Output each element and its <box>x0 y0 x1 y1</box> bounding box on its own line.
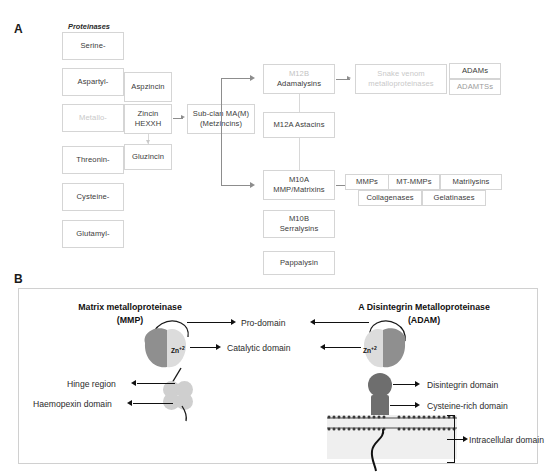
box-mmps: MMPs <box>345 174 389 190</box>
arrowhead-hinge-region <box>131 380 136 386</box>
label-mt-mmps: MT-MMPs <box>396 177 431 187</box>
label-zincin: Zincin <box>138 109 159 119</box>
box-snake-venom-metalloproteinases: Snake venom metalloproteinases <box>355 64 447 94</box>
label-disintegrin-domain: Disintegrin domain <box>427 380 498 390</box>
label-pro-domain: Pro-domain <box>241 318 285 328</box>
arrowhead-zincin-subclan <box>181 115 185 119</box>
label-m12a-astacins: M12A Astacins <box>273 120 324 130</box>
class-label-glutamyl: Glutamyl- <box>76 229 109 239</box>
connector-m12a-m10a <box>299 138 300 170</box>
arrowhead-subclan-m10a <box>250 182 255 188</box>
class-label-metallo: Metallo- <box>79 113 107 123</box>
adam-zinc-charge: +2 <box>371 345 377 351</box>
class-label-serine: Serine- <box>80 41 105 51</box>
label-adamalysins: Adamalysins <box>277 79 321 89</box>
proteinases-header: Proteinases <box>68 22 110 31</box>
arrowhead-catalytic-left <box>216 344 221 350</box>
class-box-glutamyl: Glutamyl- <box>62 220 124 248</box>
label-m12b: M12B <box>289 69 309 79</box>
arrowhead-pro-domain-left <box>231 319 236 325</box>
arrowhead-disintegrin-domain <box>415 381 420 387</box>
label-mmp-matrixins: MMP/Matrixins <box>273 185 325 195</box>
arrowhead-cysteine-rich-domain <box>415 402 420 408</box>
label-intracellular-domain: Intracellular domain <box>469 435 544 445</box>
arrow-line-haemopexin-domain <box>133 403 173 404</box>
arrow-line-cysteine-rich-domain <box>390 405 417 406</box>
panel-a: A Proteinases Serine- Aspartyl- Metallo-… <box>0 0 556 282</box>
box-m10a-mmp-matrixins: M10A MMP/Matrixins <box>263 170 335 200</box>
arrow-line-pro-domain-right <box>315 322 369 323</box>
class-label-threonin: Threonin- <box>76 155 109 165</box>
arrowhead-pro-domain-right <box>310 319 315 325</box>
connector-subclan-to-m12b <box>221 78 253 79</box>
label-matrilysins: Matrilysins <box>453 177 490 187</box>
arrow-line-catalytic-right <box>325 347 361 348</box>
disintegrin-domain-shape <box>368 373 392 397</box>
arrowhead-catalytic-right <box>320 344 325 350</box>
class-box-cysteine: Cysteine- <box>62 183 124 211</box>
arrow-line-catalytic-left <box>190 347 218 348</box>
arrowhead-subclan-m12b <box>250 75 255 81</box>
mmp-zinc-text: Zn <box>171 347 179 354</box>
label-aspzincin: Aspzincin <box>131 82 164 92</box>
arrowhead-m12b-children <box>347 76 351 80</box>
box-adams: ADAMs <box>449 63 501 79</box>
label-m10b: M10B <box>289 214 309 224</box>
adam-zinc-label: Zn+2 <box>363 345 377 354</box>
arrow-line-hinge-region <box>137 383 175 384</box>
arrow-line-pro-domain-left <box>187 322 233 323</box>
class-box-serine: Serine- <box>62 32 124 60</box>
box-m12b-adamalysins: M12B Adamalysins <box>263 64 335 94</box>
box-m10b-serralysins: M10B Serralysins <box>263 210 335 238</box>
mmp-zinc-charge: +2 <box>179 345 185 351</box>
box-matrilysins: Matrilysins <box>440 174 502 190</box>
adam-zinc-text: Zn <box>363 347 371 354</box>
label-m10a: M10A <box>289 175 309 185</box>
label-gluzincin: Gluzincin <box>132 152 164 162</box>
arrow-line-disintegrin-domain <box>393 384 417 385</box>
label-collagenases: Collagenases <box>366 193 413 203</box>
cysteine-rich-domain-shape <box>371 395 389 417</box>
box-adamtss: ADAMTSs <box>449 79 501 95</box>
connector-m12b-m12a <box>299 94 300 112</box>
box-zincin-hexxh: Zincin HEXXH <box>124 104 172 134</box>
box-gluzincin: Gluzincin <box>124 144 172 170</box>
class-box-aspartyl: Aspartyl- <box>62 68 124 96</box>
panel-b-letter: B <box>14 272 23 286</box>
label-snake-venom-line1: Snake venom <box>377 69 425 79</box>
connector-subclan-branch-vertical <box>221 78 222 186</box>
label-adams: ADAMs <box>462 66 488 76</box>
label-hexxh: HEXXH <box>135 119 162 129</box>
label-snake-venom-line2: metalloproteinases <box>368 79 434 89</box>
box-m12a-astacins: M12A Astacins <box>263 112 335 138</box>
label-cysteine-rich-domain: Cysteine-rich domain <box>427 401 508 411</box>
label-catalytic-domain: Catalytic domain <box>227 343 291 353</box>
box-aspzincin: Aspzincin <box>124 72 172 102</box>
class-box-metallo: Metallo- <box>62 104 124 132</box>
panel-a-letter: A <box>14 22 23 36</box>
panel-b: Matrix metalloproteinase (MMP) A Disinte… <box>18 288 538 464</box>
arrowhead-zincin-gluzincin <box>146 140 150 144</box>
label-gelatinases: Gelatinases <box>433 193 474 203</box>
arrowhead-intracellular-domain <box>463 436 468 442</box>
connector-subclan-to-m10a <box>221 185 253 186</box>
arrowhead-haemopexin-domain <box>127 400 132 406</box>
label-adamtss: ADAMTSs <box>457 82 493 92</box>
box-mt-mmps: MT-MMPs <box>388 174 440 190</box>
mmp-c-terminal-tail <box>177 405 197 423</box>
class-label-aspartyl: Aspartyl- <box>78 77 109 87</box>
box-collagenases: Collagenases <box>358 190 422 206</box>
box-pappalysin: Pappalysin <box>263 251 335 275</box>
box-gelatinases: Gelatinases <box>422 190 486 206</box>
label-serralysins: Serralysins <box>280 224 319 234</box>
label-subclan-ma: MA(M) <box>226 109 249 118</box>
label-haemopexin-domain: Haemopexin domain <box>33 399 112 409</box>
label-pappalysin: Pappalysin <box>280 258 318 268</box>
label-hinge-region: Hinge region <box>67 379 116 389</box>
label-mmps: MMPs <box>356 177 378 187</box>
class-label-cysteine: Cysteine- <box>77 192 110 202</box>
class-box-threonin: Threonin- <box>62 146 124 174</box>
intracellular-tail <box>359 429 399 472</box>
mmp-zinc-label: Zn+2 <box>171 345 185 354</box>
